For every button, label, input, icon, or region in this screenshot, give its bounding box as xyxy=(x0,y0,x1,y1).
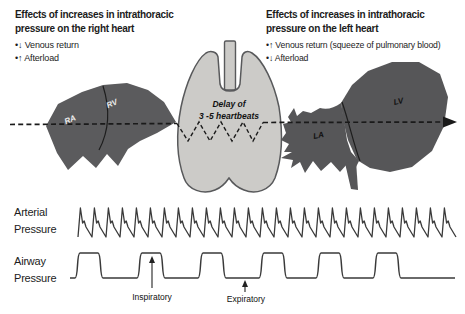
inspiratory-arrowhead-icon xyxy=(149,256,155,263)
airway-waveform xyxy=(70,253,455,278)
la-label: LA xyxy=(313,130,325,141)
diagram-svg: RA RV LA LV Delay of 3 -5 heartbeats Ins… xyxy=(0,0,465,314)
delay-text-line1: Delay of xyxy=(212,99,246,109)
expiratory-arrowhead-icon xyxy=(242,280,248,287)
inspiratory-label: Inspiratory xyxy=(132,292,172,302)
right-heart-shape xyxy=(46,83,176,170)
flow-arrowhead-icon xyxy=(443,117,457,128)
flow-dashed-line-left xyxy=(10,124,177,125)
left-heart-vessel-leg xyxy=(345,161,358,190)
delay-text-line2: 3 -5 heartbeats xyxy=(199,111,259,121)
figure-canvas: Effects of increases in intrathoracic pr… xyxy=(0,0,465,314)
left-ventricle-shape xyxy=(341,62,448,172)
expiratory-label: Expiratory xyxy=(227,294,266,304)
trachea-shape xyxy=(225,41,236,90)
arterial-waveform xyxy=(78,208,456,237)
